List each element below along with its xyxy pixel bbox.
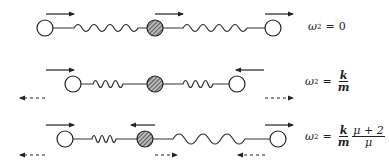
mode-2-frequency-equation: ω2 = k m (305, 70, 351, 93)
fraction-k-over-m: k m (337, 70, 351, 93)
mass-open-right (229, 76, 245, 92)
mode-1-row (37, 14, 293, 36)
omega-symbol: ω (305, 130, 314, 143)
rhs-value: 0 (339, 20, 346, 33)
denominator: m (337, 137, 351, 148)
mass-hatched-center (147, 76, 163, 92)
mode-3-springs (73, 134, 270, 144)
equals-sign: = (322, 75, 331, 88)
omega-symbol: ω (305, 75, 314, 88)
mass-open-left (37, 20, 53, 36)
mass-hatched-center (147, 20, 163, 36)
omega-symbol: ω (308, 20, 317, 33)
mode-2-row (20, 70, 293, 98)
mass-open-left (57, 131, 73, 147)
mode-1-frequency-equation: ω2 = 0 (308, 20, 346, 33)
mass-hatched-center (137, 131, 153, 147)
denominator: m (337, 82, 351, 93)
mass-open-left (65, 76, 81, 92)
mass-open-right (270, 131, 286, 147)
fraction-mu-plus-2-over-mu: μ + 2 μ (352, 125, 384, 148)
equals-sign: = (322, 130, 331, 143)
mass-open-right (265, 20, 281, 36)
mode-3-frequency-equation: ω2 = k m μ + 2 μ (305, 125, 386, 148)
fraction-k-over-m: k m (337, 125, 351, 148)
equals-sign: = (325, 20, 334, 33)
mode-3-row (20, 125, 293, 155)
denominator: μ (364, 137, 373, 148)
